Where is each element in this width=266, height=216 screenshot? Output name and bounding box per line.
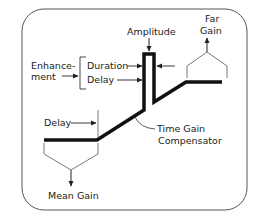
enhancement-label-2: ment: [31, 71, 56, 82]
far-gain-label-1: Far: [205, 13, 219, 24]
tgc-label-2: Compensator: [158, 135, 222, 146]
mean-gain-label: Mean Gain: [48, 190, 99, 201]
enhancement-bracket: [80, 57, 86, 89]
diagram-frame: [22, 9, 247, 210]
far-gain-label-2: Gain: [200, 25, 222, 36]
tgc-diagram: Amplitude Far Gain Enhance- ment Duratio…: [0, 0, 266, 216]
amplitude-label: Amplitude: [127, 26, 176, 37]
mean-gain-bracket: [44, 143, 98, 170]
delay-upper-label: Delay: [87, 74, 115, 85]
far-gain-bracket: [187, 52, 227, 78]
duration-label: Duration: [87, 60, 128, 71]
enhancement-label-1: Enhance-: [31, 60, 75, 71]
delay-lower-label: Delay: [44, 117, 72, 128]
tgc-label-1: Time Gain: [156, 123, 205, 134]
tgc-leader-line: [135, 117, 155, 129]
